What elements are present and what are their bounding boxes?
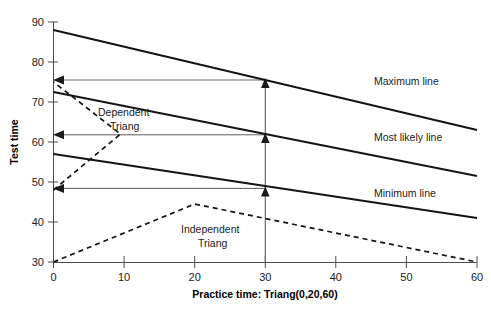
chart-container: 90 80 70 60 50 40 30 0 10 20 30 40 50 60 (0, 0, 491, 309)
x-tick-label-40: 40 (330, 271, 342, 283)
y-tick-label-40: 40 (32, 216, 44, 228)
label-independent-triang-line1: Independent (181, 223, 239, 235)
x-tick-label-20: 20 (189, 271, 201, 283)
x-axis-title: Practice time: Triang(0,20,60) (192, 288, 337, 300)
y-tick-label-50: 50 (32, 176, 44, 188)
x-tick-label-60: 60 (471, 271, 483, 283)
label-maximum-line: Maximum line (374, 75, 439, 87)
label-minimum-line: Minimum line (374, 187, 436, 199)
x-tick-label-0: 0 (50, 271, 56, 283)
x-tick-label-10: 10 (118, 271, 130, 283)
y-tick-labels: 90 80 70 60 50 40 30 (32, 16, 44, 268)
chart-canvas: 90 80 70 60 50 40 30 0 10 20 30 40 50 60 (0, 0, 491, 309)
label-independent-triang-line2: Triang (198, 237, 228, 249)
label-most-likely-line: Most likely line (374, 131, 442, 143)
x-tick-label-30: 30 (259, 271, 271, 283)
x-tick-labels: 0 10 20 30 40 50 60 (50, 271, 483, 283)
y-tick-label-30: 30 (32, 256, 44, 268)
arrow-max-head (53, 76, 64, 85)
y-tick-label-70: 70 (32, 96, 44, 108)
arrow-mid-head (53, 130, 64, 139)
y-tick-label-90: 90 (32, 16, 44, 28)
y-axis-title: Test time (8, 119, 20, 164)
y-tick-label-60: 60 (32, 136, 44, 148)
y-tick-label-80: 80 (32, 56, 44, 68)
label-dependent-triang-line1: Dependent (98, 106, 149, 118)
x-tick-label-50: 50 (400, 271, 412, 283)
label-dependent-triang-line2: Triang (110, 120, 140, 132)
